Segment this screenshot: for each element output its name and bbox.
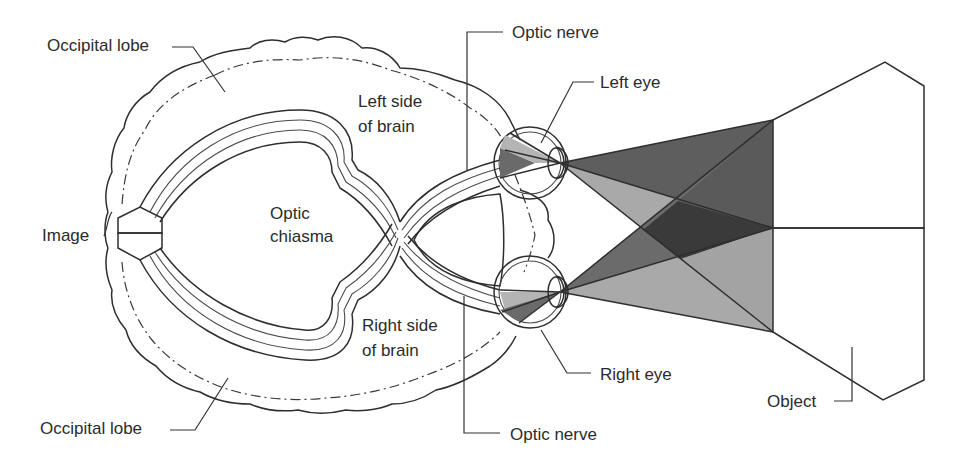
leader-right-eye [541,330,591,373]
label-chiasma: chiasma [270,227,334,246]
image-hexagon [118,207,162,260]
label-right-side-line2: of brain [362,341,419,360]
label-left-side-line1: Left side [358,92,422,111]
label-image: Image [42,226,89,245]
label-occipital-lobe-top: Occipital lobe [47,36,149,55]
label-optic-nerve-bottom: Optic nerve [510,425,597,444]
visual-pathway-diagram: Occipital lobe Occipital lobe Left side … [0,0,968,464]
label-left-eye: Left eye [600,73,661,92]
label-optic: Optic [270,204,310,223]
object-shape [773,62,924,400]
label-occipital-lobe-bottom: Occipital lobe [40,419,142,438]
leader-left-eye [541,82,594,143]
image-upper-half [118,207,162,233]
label-optic-nerve-top: Optic nerve [512,23,599,42]
leader-optic-nerve-bottom [464,296,500,433]
leader-object [834,347,852,401]
image-lower-half [118,233,162,260]
label-left-side-line2: of brain [358,117,415,136]
label-object: Object [767,392,816,411]
object-lower-half [773,228,924,400]
light-rays [560,120,773,332]
label-right-side-line1: Right side [362,316,438,335]
right-eye [494,256,568,328]
left-eye [494,127,568,199]
object-upper-half [773,62,924,228]
label-right-eye: Right eye [600,365,672,384]
diagram-canvas: Occipital lobe Occipital lobe Left side … [0,0,968,464]
leader-optic-nerve-top [467,32,503,170]
